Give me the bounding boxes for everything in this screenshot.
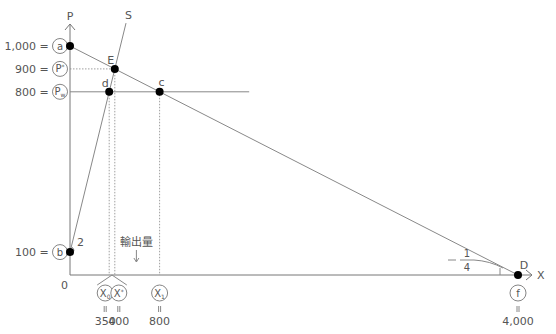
x-brace <box>97 275 127 285</box>
point-label-c: c <box>159 76 165 89</box>
point-b <box>66 248 74 256</box>
point-label-d: d <box>102 77 109 90</box>
export-chart: P X 0 S 1,000=a900=P*800=Pw100=b X0350X*… <box>0 0 556 334</box>
supply-label: S <box>125 9 132 22</box>
demand-slope-denominator: 4 <box>464 262 470 273</box>
y-tick-equals: = <box>39 63 48 76</box>
export-quantity-label: 輸出量 <box>120 235 153 249</box>
y-tick-value: 1,000 <box>5 40 37 53</box>
annotations: 214輸出量 <box>72 235 503 285</box>
y-tick-labels: 1,000=a900=P*800=Pw100=b <box>5 39 68 260</box>
y-tick-equals: = <box>39 40 48 53</box>
supply-slope-label: 2 <box>77 236 84 249</box>
y-tick-equals: = <box>39 246 48 259</box>
x-tick-symbol: f <box>516 288 520 299</box>
y-axis-label: P <box>67 10 74 23</box>
supply-line <box>70 23 126 252</box>
x-tick-value: 400 <box>108 315 129 328</box>
x-axis-label: X <box>537 269 545 282</box>
y-tick-equals: = <box>39 86 48 99</box>
point-a <box>66 42 74 50</box>
x-tick-value: 4,000 <box>502 315 534 328</box>
demand-slope-leader <box>474 260 503 268</box>
x-tick-value: 800 <box>149 315 170 328</box>
y-tick-value: 900 <box>15 63 36 76</box>
y-tick-value: 100 <box>15 246 36 259</box>
point-label-E: E <box>107 54 114 67</box>
y-tick-value: 800 <box>15 86 36 99</box>
y-tick-symbol: b <box>57 247 63 258</box>
origin-label: 0 <box>61 279 68 292</box>
point-D <box>514 271 522 279</box>
point-c <box>156 88 164 96</box>
x-tick-labels: X0350X*400X1800f4,000 <box>95 285 534 328</box>
point-label-D: D <box>520 259 528 272</box>
demand-slope-numerator: 1 <box>464 248 470 259</box>
y-tick-symbol: a <box>57 41 63 52</box>
